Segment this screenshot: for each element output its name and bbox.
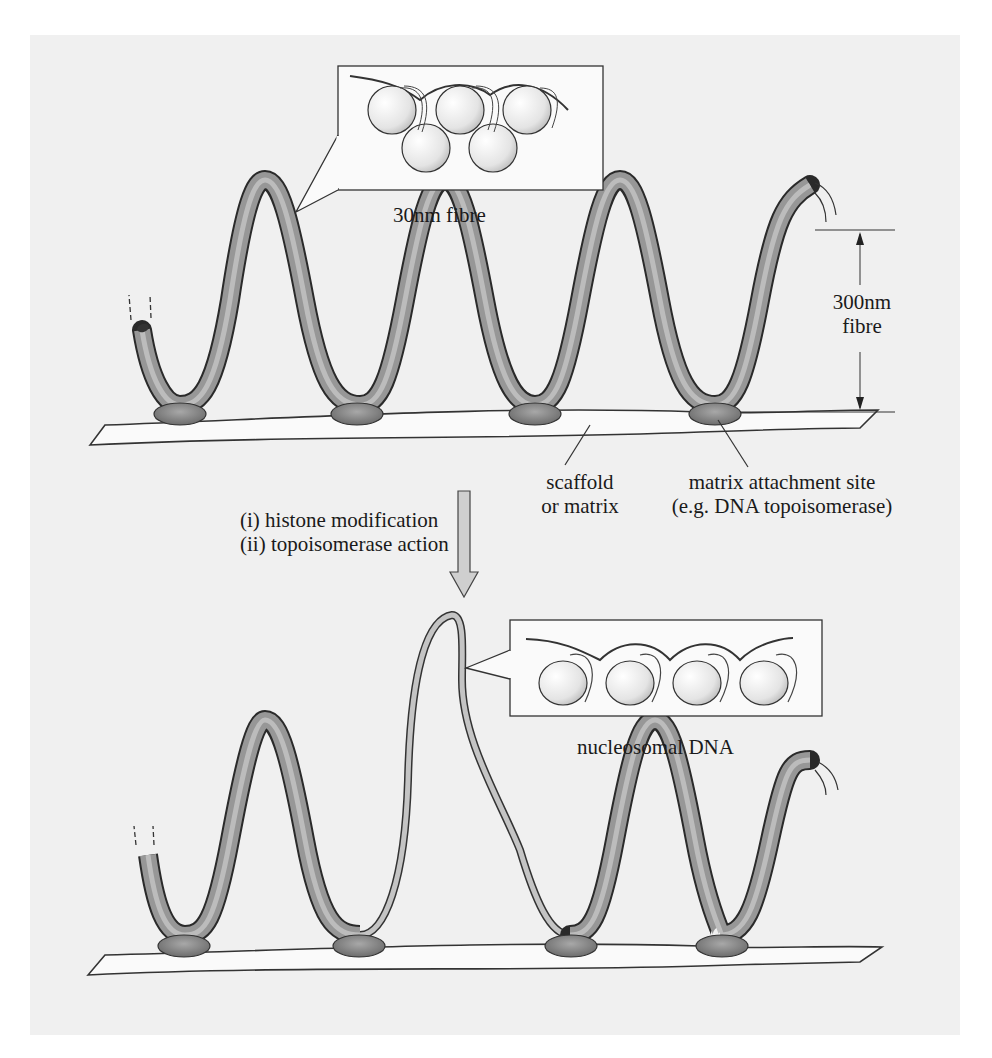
step-topoisomerase-action: (ii) topoisomerase action [240,532,449,556]
scaffold-label-line1: scaffold [525,470,635,494]
300nm-label-line2: fibre [822,314,902,338]
attachment-label-line2: (e.g. DNA topoisomerase) [662,494,902,518]
attachment-label-line1: matrix attachment site [662,470,902,494]
nucleosomal-dna-label: nucleosomal DNA [577,735,734,759]
300nm-label-line1: 300nm [822,290,902,314]
chromatin-loop-diagram [0,0,992,1058]
30nm-fibre-inset [296,66,603,212]
scaffold-label: scaffold or matrix [525,470,635,518]
scaffold-label-line2: or matrix [525,494,635,518]
fibre-bottom-left-loop [134,720,360,935]
nucleosomal-dna-inset [466,620,822,716]
matrix-attachment-label: matrix attachment site (e.g. DNA topoiso… [662,470,902,518]
scaffold-top [90,410,878,445]
down-arrow [450,491,478,597]
step-histone-modification: (i) histone modification [240,508,449,532]
transition-steps: (i) histone modification (ii) topoisomer… [240,508,449,556]
300nm-fibre-label: 300nm fibre [822,290,902,338]
30nm-fibre-label: 30nm fibre [393,203,486,227]
